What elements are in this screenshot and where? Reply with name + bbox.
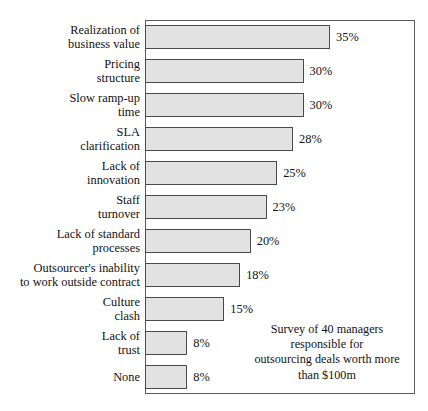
bar-value-label: 23% (273, 200, 296, 214)
bar-value-label: 8% (193, 370, 210, 384)
bar-wrapper: 30% (145, 93, 304, 117)
bar (145, 263, 240, 287)
bar (145, 161, 277, 185)
bar-wrapper: 23% (145, 195, 267, 219)
bar-wrapper: 35% (145, 25, 330, 49)
bar-wrapper: 25% (145, 161, 277, 185)
bar-category-label: Pricing structure (4, 54, 140, 88)
bar (145, 331, 187, 355)
bar (145, 127, 293, 151)
bar-category-label: Culture clash (4, 292, 140, 326)
bar (145, 229, 251, 253)
bar-category-label: Lack of innovation (4, 156, 140, 190)
bar-row: Pricing structure30% (0, 54, 428, 88)
bar-category-label: Outsourcer's inability to work outside c… (4, 258, 140, 292)
bar-category-label: Slow ramp-up time (4, 88, 140, 122)
bar (145, 93, 304, 117)
bar-row: Culture clash15% (0, 292, 428, 326)
bar-wrapper: 18% (145, 263, 240, 287)
bar (145, 195, 267, 219)
bar-row: Lack of standard processes20% (0, 224, 428, 258)
bar-row: Realization of business value35% (0, 20, 428, 54)
bar-wrapper: 8% (145, 331, 187, 355)
bar-wrapper: 20% (145, 229, 251, 253)
bar-category-label: Lack of trust (4, 326, 140, 360)
bar-wrapper: 28% (145, 127, 293, 151)
bar-value-label: 8% (193, 336, 210, 350)
bar-value-label: 35% (336, 30, 359, 44)
bar-row: Outsourcer's inability to work outside c… (0, 258, 428, 292)
horizontal-bar-chart: Realization of business value35%Pricing … (0, 0, 428, 411)
bar-category-label: None (4, 360, 140, 394)
bar (145, 365, 187, 389)
bar-value-label: 25% (283, 166, 306, 180)
bar-category-label: Staff turnover (4, 190, 140, 224)
bar-value-label: 18% (246, 268, 269, 282)
bar-wrapper: 30% (145, 59, 304, 83)
bar-row: Lack of innovation25% (0, 156, 428, 190)
bar-value-label: 30% (310, 64, 333, 78)
bar-category-label: SLA clarification (4, 122, 140, 156)
bar-value-label: 20% (257, 234, 280, 248)
bar-row: Slow ramp-up time30% (0, 88, 428, 122)
bar (145, 25, 330, 49)
bar-value-label: 15% (230, 302, 253, 316)
bar-category-label: Realization of business value (4, 20, 140, 54)
bar-wrapper: 15% (145, 297, 224, 321)
bar-row: Staff turnover23% (0, 190, 428, 224)
bar-value-label: 28% (299, 132, 322, 146)
bar-wrapper: 8% (145, 365, 187, 389)
bar-category-label: Lack of standard processes (4, 224, 140, 258)
survey-annotation: Survey of 40 managers responsible for ou… (243, 322, 411, 383)
bar (145, 297, 224, 321)
bar-value-label: 30% (310, 98, 333, 112)
bar-row: SLA clarification28% (0, 122, 428, 156)
bar (145, 59, 304, 83)
